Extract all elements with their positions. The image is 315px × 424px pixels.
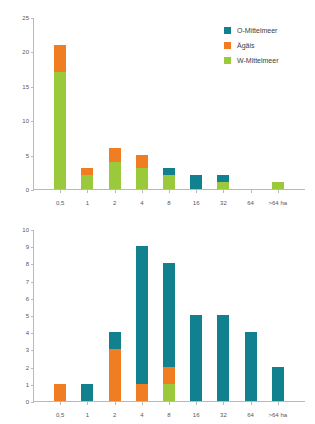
bar-0,5–1 — [81, 384, 93, 401]
y-tick-mark — [31, 18, 34, 19]
bar-segment-wmittelmeer — [272, 182, 284, 189]
y-axis-line-top — [33, 18, 34, 190]
bar-16–32 — [217, 175, 229, 189]
x-tick-mark — [278, 190, 279, 193]
x-tick-mark — [142, 190, 143, 193]
bar-segment-gis — [136, 384, 148, 401]
x-tick-label: 4 — [140, 412, 143, 418]
x-tick-mark — [115, 402, 116, 405]
y-tick-mark — [31, 230, 34, 231]
bar->64 — [272, 367, 284, 401]
y-tick-mark — [31, 52, 34, 53]
bar-segment-gis — [163, 367, 175, 384]
bar-<0,5 — [54, 384, 66, 401]
bar-segment-omittelmeer — [190, 315, 202, 401]
x-tick-mark — [87, 402, 88, 405]
x-tick-mark — [251, 402, 252, 405]
bar-segment-omittelmeer — [81, 384, 93, 401]
bar-segment-wmittelmeer — [163, 175, 175, 189]
x-tick-label: 16 — [193, 412, 200, 418]
legend-top: O-MittelmeerÄgäisW-Mittelmeer — [224, 26, 314, 71]
x-tick-label: 64 — [247, 412, 254, 418]
x-tick-mark — [169, 402, 170, 405]
axes-bottom: 012345678910 0,51248163264>64 ha — [33, 230, 305, 402]
y-tick-label: 2 — [3, 365, 29, 371]
bar-segment-gis — [109, 148, 121, 162]
plot-area-top: 0510152025 0,51248163264>64 ha O-Mittelm… — [0, 0, 315, 212]
bar-segment-gis — [81, 168, 93, 175]
x-tick-label: 4 — [140, 200, 143, 206]
bar-segment-wmittelmeer — [136, 168, 148, 189]
y-tick-mark — [31, 282, 34, 283]
bar-segment-wmittelmeer — [54, 72, 66, 189]
x-tick-mark — [251, 190, 252, 193]
x-tick-mark — [60, 402, 61, 405]
bar-1–2 — [109, 148, 121, 189]
bar-segment-omittelmeer — [245, 332, 257, 401]
y-tick-mark — [31, 87, 34, 88]
chart-top: 0510152025 0,51248163264>64 ha O-Mittelm… — [0, 0, 315, 212]
y-tick-label: 10 — [3, 118, 29, 124]
x-tick-mark — [196, 402, 197, 405]
legend-item-aegais[interactable]: Ägäis — [224, 41, 314, 50]
y-tick-label: 20 — [3, 49, 29, 55]
bar-4–8 — [163, 263, 175, 401]
bar-segment-omittelmeer — [163, 263, 175, 366]
legend-swatch-icon — [224, 42, 231, 49]
legend-swatch-icon — [224, 57, 231, 64]
y-tick-mark — [31, 121, 34, 122]
x-tick-mark — [142, 402, 143, 405]
x-tick-mark — [87, 190, 88, 193]
y-tick-label: 5 — [3, 153, 29, 159]
y-tick-mark — [31, 350, 34, 351]
y-tick-mark — [31, 264, 34, 265]
y-tick-label: 8 — [3, 261, 29, 267]
y-tick-label: 0 — [3, 399, 29, 405]
bar-0,5–1 — [81, 168, 93, 189]
bar-segment-gis — [54, 384, 66, 401]
y-tick-label: 3 — [3, 347, 29, 353]
bar-32–64 — [245, 332, 257, 401]
x-tick-label: 2 — [113, 200, 116, 206]
x-tick-mark — [196, 190, 197, 193]
y-tick-mark — [31, 402, 34, 403]
y-tick-label: 10 — [3, 227, 29, 233]
bar-segment-omittelmeer — [217, 175, 229, 182]
x-tick-mark — [169, 190, 170, 193]
y-tick-mark — [31, 385, 34, 386]
plot-area-bottom: 012345678910 0,51248163264>64 ha — [0, 212, 315, 424]
y-tick-mark — [31, 368, 34, 369]
bar-1–2 — [109, 332, 121, 401]
y-tick-label: 7 — [3, 279, 29, 285]
x-tick-label: 0,5 — [56, 200, 64, 206]
bar-segment-omittelmeer — [109, 332, 121, 349]
bar-segment-omittelmeer — [163, 168, 175, 175]
legend-item-w-mittelmeer[interactable]: W-Mittelmeer — [224, 56, 314, 65]
bar->64 — [272, 182, 284, 189]
x-tick-label: >64 ha — [269, 412, 288, 418]
legend-item-label: Ägäis — [237, 42, 255, 49]
y-tick-label: 5 — [3, 313, 29, 319]
x-tick-label: 2 — [113, 412, 116, 418]
bar-8–16 — [190, 315, 202, 401]
legend-item-label: O-Mittelmeer — [237, 27, 277, 34]
y-tick-label: 9 — [3, 244, 29, 250]
y-tick-mark — [31, 316, 34, 317]
bar-segment-omittelmeer — [136, 246, 148, 384]
y-tick-label: 6 — [3, 296, 29, 302]
x-tick-label: 0,5 — [56, 412, 64, 418]
bar-segment-omittelmeer — [217, 315, 229, 401]
bar-2–4 — [136, 246, 148, 401]
x-tick-label: 1 — [86, 412, 89, 418]
x-tick-label: 1 — [86, 200, 89, 206]
bar-segment-gis — [54, 45, 66, 73]
x-tick-label: >64 ha — [269, 200, 288, 206]
y-tick-label: 4 — [3, 330, 29, 336]
legend-item-o-mittelmeer[interactable]: O-Mittelmeer — [224, 26, 314, 35]
bar-segment-wmittelmeer — [81, 175, 93, 189]
legend-item-label: W-Mittelmeer — [237, 57, 278, 64]
bar-segment-wmittelmeer — [109, 162, 121, 190]
x-tick-mark — [278, 402, 279, 405]
x-tick-label: 32 — [220, 412, 227, 418]
x-tick-label: 8 — [167, 412, 170, 418]
